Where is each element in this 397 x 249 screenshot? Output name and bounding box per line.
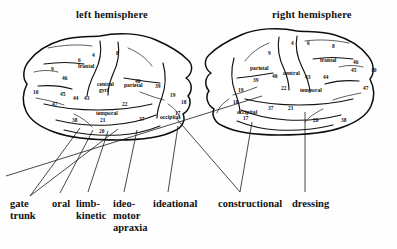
left-area-47: 47 (52, 101, 58, 107)
figure-canvas: left hemisphere right hemisphere frontal… (0, 0, 397, 249)
right-lobe-temporal: temporal (300, 87, 322, 93)
left-lobe-gyri: gyri (99, 87, 109, 93)
apraxia-label-limb-kinetic: limb-kinetic (76, 198, 106, 222)
apraxia-label-line: constructional (218, 198, 282, 210)
left-area-6: 6 (78, 57, 81, 63)
right-area-40: 40 (272, 73, 278, 79)
left-area-37: 37 (139, 116, 145, 122)
right-area-9: 9 (268, 50, 271, 56)
left-area-17: 17 (175, 110, 181, 116)
left-area-21: 21 (100, 117, 106, 123)
left-area-22: 22 (122, 101, 128, 107)
left-area-40: 40 (135, 78, 141, 84)
apraxia-label-line: dressing (292, 198, 329, 210)
right-area-8: 8 (332, 43, 335, 49)
left-lobe-frontal: frontal (78, 63, 95, 69)
apraxia-label-line: kinetic (76, 210, 106, 222)
right-area-22: 22 (281, 85, 287, 91)
left-area-8: 8 (116, 50, 119, 56)
right-area-37: 37 (268, 105, 274, 111)
leader-line-ideational (168, 126, 178, 192)
right-area-45: 45 (351, 67, 357, 73)
right-lobe-parietal: parietal (250, 65, 269, 71)
left-area-46: 46 (62, 75, 68, 81)
right-lobe-central: central (283, 70, 300, 76)
apraxia-label-gate-trunk: gatetrunk (10, 198, 36, 222)
apraxia-label-line: ideo- (113, 198, 147, 210)
right-area-20: 20 (313, 117, 319, 123)
leader-line-gate-trunk (30, 128, 80, 196)
right-brain-outline (205, 29, 373, 135)
apraxia-label-line: ideational (153, 198, 197, 210)
right-area-44: 44 (323, 74, 329, 80)
apraxia-label-ideo-motor: ideo-motorapraxia (113, 198, 147, 234)
leader-line-oral (60, 130, 93, 193)
apraxia-label-line: motor (113, 210, 147, 222)
right-area-47: 47 (363, 85, 369, 91)
right-area-10: 10 (371, 67, 377, 73)
apraxia-label-line: limb- (76, 198, 106, 210)
right-area-21: 21 (288, 105, 294, 111)
brain-diagram-svg: frontalcentralgyriparietaltemporaloccipi… (0, 0, 397, 249)
apraxia-label-constructional: constructional (218, 198, 282, 210)
left-area-44: 44 (73, 95, 79, 101)
apraxia-label-ideational: ideational (153, 198, 197, 210)
apraxia-label-line: trunk (10, 210, 36, 222)
right-area-17: 17 (243, 115, 249, 121)
right-area-4: 4 (291, 40, 294, 46)
right-area-39: 39 (253, 77, 259, 83)
right-area-46: 46 (353, 59, 359, 65)
right-area-19: 19 (238, 87, 244, 93)
left-area-38: 38 (72, 117, 78, 123)
right-area-6: 6 (307, 40, 310, 46)
left-lobe-temporal: temporal (96, 110, 118, 116)
right-area-43: 43 (305, 74, 311, 80)
left-hemisphere-drawing: frontalcentralgyriparietaltemporaloccipi… (23, 34, 191, 140)
left-area-45: 45 (60, 91, 66, 97)
apraxia-label-oral: oral (52, 198, 70, 210)
apraxia-label-line: gate (10, 198, 36, 210)
right-lobe-frontal: frontal (320, 57, 337, 63)
apraxia-label-line: oral (52, 198, 70, 210)
left-area-18: 18 (181, 99, 187, 105)
left-area-39: 39 (155, 83, 161, 89)
left-area-10: 10 (33, 89, 39, 95)
apraxia-label-line: apraxia (113, 222, 147, 234)
apraxia-label-dressing: dressing (292, 198, 329, 210)
leader-line-gate-trunk (30, 129, 118, 196)
left-area-19: 19 (170, 92, 176, 98)
left-area-9: 9 (51, 66, 54, 72)
right-hemisphere-drawing: parietalcentralfrontaltemporaloccipital … (205, 29, 376, 135)
left-area-43: 43 (84, 95, 90, 101)
right-area-38: 38 (341, 117, 347, 123)
left-area-4: 4 (92, 52, 95, 58)
left-area-20: 20 (99, 128, 105, 134)
